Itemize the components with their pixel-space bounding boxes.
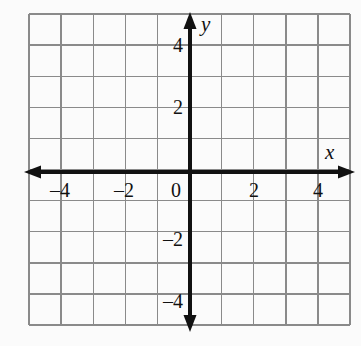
x-tick-label-minus-4: –4	[50, 180, 70, 200]
y-tick-label-minus-2: –2	[163, 229, 183, 249]
y-tick-label-minus-4: –4	[163, 291, 183, 311]
y-tick-label-2: 2	[173, 97, 183, 117]
x-tick-label-2: 2	[249, 180, 259, 200]
y-axis-name-label: y	[201, 14, 210, 35]
x-axis-arrow-left	[24, 166, 41, 179]
y-tick-label-4: 4	[173, 35, 183, 55]
x-axis-name-label: x	[325, 142, 334, 163]
x-tick-label-zero: 0	[171, 180, 181, 200]
coordinate-plane-figure: –4 –2 0 2 4 4 2 –2 –4 x y	[0, 0, 361, 346]
x-tick-label-minus-2: –2	[114, 180, 134, 200]
y-axis-arrow-down	[184, 315, 197, 332]
x-tick-label-4: 4	[313, 180, 323, 200]
x-axis-arrow-right	[338, 166, 355, 179]
